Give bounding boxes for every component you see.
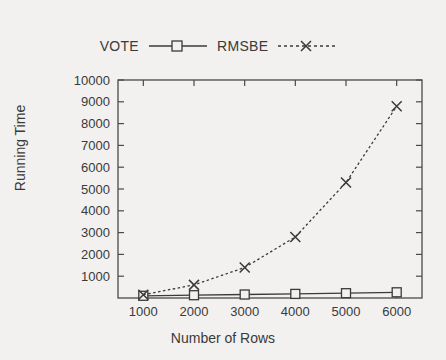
y-tick-label: 6000 bbox=[81, 160, 110, 175]
y-tick-label: 10000 bbox=[74, 73, 110, 88]
y-tick-label: 5000 bbox=[81, 182, 110, 197]
y-axis-title: Running Time bbox=[12, 88, 28, 208]
x-tick-label: 3000 bbox=[230, 304, 259, 319]
y-tick-label: 7000 bbox=[81, 138, 110, 153]
y-tick-label: 1000 bbox=[81, 269, 110, 284]
y-tick-label: 9000 bbox=[81, 94, 110, 109]
data-point-marker-vote bbox=[342, 289, 351, 298]
data-point-marker-rmsbe bbox=[290, 232, 300, 242]
data-point-marker-vote bbox=[190, 291, 199, 300]
data-point-marker-vote bbox=[291, 289, 300, 298]
x-tick-label: 4000 bbox=[281, 304, 310, 319]
x-axis-ticks: 100020003000400050006000 bbox=[129, 80, 411, 319]
data-point-marker-vote bbox=[240, 290, 249, 299]
x-axis-title: Number of Rows bbox=[0, 330, 446, 346]
chart-plot-area: 1000200030004000500060007000800090001000… bbox=[0, 0, 446, 360]
series-line-rmsbe bbox=[143, 106, 396, 295]
y-tick-label: 3000 bbox=[81, 225, 110, 240]
data-point-marker-vote bbox=[392, 288, 401, 297]
data-point-marker-rmsbe bbox=[189, 280, 199, 290]
y-tick-label: 4000 bbox=[81, 203, 110, 218]
series-line-vote bbox=[143, 292, 396, 296]
chart-figure: VOTE RMSBE 10002000300040005000600070008… bbox=[0, 0, 446, 360]
y-axis-ticks: 1000200030004000500060007000800090001000… bbox=[74, 73, 422, 284]
y-tick-label: 8000 bbox=[81, 116, 110, 131]
x-tick-label: 5000 bbox=[332, 304, 361, 319]
data-point-marker-rmsbe bbox=[341, 178, 351, 188]
x-tick-label: 2000 bbox=[180, 304, 209, 319]
x-tick-label: 6000 bbox=[382, 304, 411, 319]
data-point-marker-rmsbe bbox=[240, 263, 250, 273]
data-point-marker-vote bbox=[139, 291, 148, 300]
data-series-group bbox=[138, 101, 401, 300]
x-tick-label: 1000 bbox=[129, 304, 158, 319]
y-tick-label: 2000 bbox=[81, 247, 110, 262]
plot-frame bbox=[118, 80, 422, 298]
data-point-marker-rmsbe bbox=[392, 101, 402, 111]
